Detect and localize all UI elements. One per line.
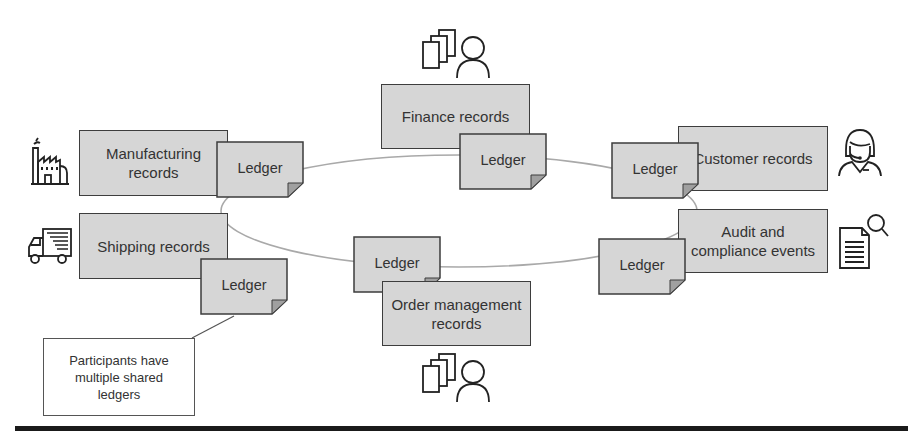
finance-ledger: Ledger	[459, 133, 547, 190]
callout-note: Participants have multiple shared ledger…	[43, 338, 195, 416]
ledger-label: Ledger	[611, 142, 699, 199]
documents-person-icon	[417, 28, 497, 80]
callout-pointer-line	[192, 316, 234, 338]
factory-icon	[26, 136, 72, 186]
delivery-truck-icon	[26, 226, 74, 266]
ledger-label: Ledger	[216, 141, 304, 198]
ledger-label: Ledger	[200, 258, 288, 315]
ledger-label: Ledger	[598, 238, 686, 295]
manufacturing-ledger: Ledger	[216, 141, 304, 198]
customer-records-box: Customer records	[678, 126, 828, 191]
audit-compliance-events-box: Audit and compliance events	[678, 209, 828, 273]
audit-compliance-events-label: Audit and compliance events	[685, 222, 821, 260]
callout-text: Participants have multiple shared ledger…	[52, 352, 186, 403]
customer-records-label: Customer records	[693, 149, 812, 168]
order-management-records-box: Order management records	[382, 281, 531, 346]
customer-ledger: Ledger	[611, 142, 699, 199]
audit-ledger: Ledger	[598, 238, 686, 295]
shipping-records-label: Shipping records	[97, 237, 210, 256]
document-search-icon	[837, 212, 891, 270]
shared-ledger-network-diagram: Manufacturing records Ledger Shipping re…	[0, 0, 918, 444]
manufacturing-records-box: Manufacturing records	[79, 130, 228, 196]
customer-support-headset-icon	[837, 128, 883, 178]
manufacturing-records-label: Manufacturing records	[86, 144, 221, 182]
bottom-divider-rule	[15, 426, 908, 431]
documents-person-icon	[417, 352, 497, 404]
order-management-records-label: Order management records	[389, 295, 524, 333]
shipping-ledger: Ledger	[200, 258, 288, 315]
ledger-label: Ledger	[459, 133, 547, 190]
finance-records-label: Finance records	[402, 107, 510, 126]
